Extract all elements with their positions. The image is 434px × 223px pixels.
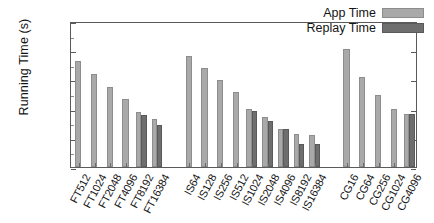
x-axis-tick bbox=[315, 163, 316, 167]
x-axis-tick bbox=[300, 163, 301, 167]
y-axis-tick-right bbox=[411, 169, 416, 170]
y-axis-tick-right bbox=[411, 52, 416, 53]
plot-area bbox=[70, 22, 417, 168]
x-axis-tick bbox=[110, 163, 111, 167]
x-axis-tick bbox=[79, 163, 80, 167]
bar-app-time bbox=[201, 68, 207, 167]
bar-app-time bbox=[375, 95, 381, 167]
bar-replay-time bbox=[157, 125, 162, 167]
x-axis-tick bbox=[158, 163, 159, 167]
x-axis-tick bbox=[363, 163, 364, 167]
bar-replay-time bbox=[409, 114, 414, 167]
y-axis-minor-tick bbox=[71, 125, 74, 126]
chart-figure: Running Time (s) App TimeReplay Time 141… bbox=[0, 0, 434, 223]
bar-replay-time bbox=[141, 115, 146, 167]
x-axis-tick bbox=[252, 163, 253, 167]
y-axis-title: Running Time (s) bbox=[17, 0, 31, 137]
y-axis-minor-tick bbox=[71, 154, 74, 155]
x-axis-tick bbox=[347, 163, 348, 167]
x-axis-tick bbox=[394, 163, 395, 167]
legend-label: App Time bbox=[323, 6, 376, 20]
bar-app-time bbox=[233, 92, 239, 167]
bar-app-time bbox=[75, 61, 81, 167]
bar-app-time bbox=[186, 56, 192, 167]
legend-swatch bbox=[382, 23, 424, 33]
legend-item: App Time bbox=[307, 6, 424, 19]
x-axis-tick bbox=[205, 163, 206, 167]
bar-app-time bbox=[391, 109, 397, 167]
legend-label: Replay Time bbox=[307, 21, 376, 35]
x-axis-tick bbox=[221, 163, 222, 167]
legend-swatch bbox=[382, 8, 424, 18]
bar-app-time bbox=[343, 49, 349, 167]
y-axis-tick bbox=[71, 169, 76, 170]
x-axis-tick bbox=[237, 163, 238, 167]
y-axis-tick-right bbox=[411, 81, 416, 82]
x-axis-tick bbox=[189, 163, 190, 167]
x-axis-tick bbox=[284, 163, 285, 167]
y-axis-minor-tick bbox=[71, 67, 74, 68]
x-axis-tick bbox=[379, 163, 380, 167]
y-axis-minor-tick bbox=[71, 96, 74, 97]
legend-item: Replay Time bbox=[307, 21, 424, 34]
y-axis-tick-right bbox=[411, 111, 416, 112]
y-axis-tick bbox=[71, 52, 76, 53]
x-axis-tick bbox=[142, 163, 143, 167]
bar-replay-time bbox=[283, 129, 288, 167]
bar-app-time bbox=[217, 80, 223, 167]
bar-app-time bbox=[122, 99, 128, 167]
bar-app-time bbox=[359, 77, 365, 167]
x-axis-tick bbox=[95, 163, 96, 167]
bar-app-time bbox=[91, 74, 97, 167]
x-axis-tick bbox=[410, 163, 411, 167]
chart-legend: App TimeReplay Time bbox=[307, 6, 424, 36]
bar-replay-time bbox=[252, 111, 257, 167]
y-axis-minor-tick bbox=[71, 38, 74, 39]
x-axis-tick bbox=[268, 163, 269, 167]
y-axis-tick bbox=[71, 23, 76, 24]
bar-app-time bbox=[107, 87, 113, 167]
bar-replay-time bbox=[268, 121, 273, 167]
x-axis-tick bbox=[126, 163, 127, 167]
